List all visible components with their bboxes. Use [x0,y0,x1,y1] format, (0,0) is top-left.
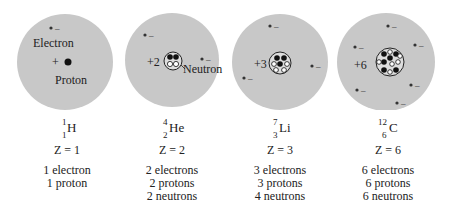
particle-counts: 6 electrons 6 protons 6 neutrons [333,164,443,203]
particle-counts: 2 electrons 2 protons 2 neutrons [117,164,227,203]
helium-caption: 4 2 He Z = 2 2 electrons 2 protons 2 neu… [117,118,227,203]
electron-dot [353,45,356,48]
neutron-count: 2 neutrons [117,190,227,203]
carbon-atom: – – – – – – +6 [337,13,435,110]
element-symbol: He [169,121,184,134]
hydrogen-atom: – Electron + Proton [17,14,113,110]
electron-sign: – [315,61,321,71]
element-symbol: Li [279,121,291,134]
proton-label: Proton [55,73,87,87]
z-value: Z = 1 [12,144,122,157]
atomic-number: 2 [163,131,168,140]
helium-atom: – – +2 Neutron [125,13,222,107]
particle-counts: 1 electron 1 proton [12,164,122,190]
electron-sign: – [54,23,60,33]
neutron-count: 6 neutrons [333,190,443,203]
electron-sign: – [360,85,366,95]
isotope-notation: 12 6 C [333,118,443,142]
mass-number: 1 [62,118,67,127]
element-symbol: H [67,121,76,134]
electron-dot [386,24,389,27]
nucleus [269,52,291,74]
electron-label: Electron [33,36,74,50]
electron-dot [268,24,271,27]
electron-sign: – [391,21,397,31]
electron-dot [395,101,398,104]
electron-dot [413,43,416,46]
nucleus-charge: +3 [254,57,267,71]
nucleus-charge: +2 [147,55,160,69]
z-value: Z = 3 [225,144,335,157]
mass-number: 12 [378,118,387,127]
isotope-notation: 7 3 Li [225,118,335,142]
z-value: Z = 2 [117,144,227,157]
carbon-caption: 12 6 C Z = 6 6 electrons 6 protons 6 neu… [333,118,443,203]
electron-dot [242,76,245,79]
neutron-count: 4 neutrons [225,190,335,203]
electron-sign: – [273,21,279,31]
electron-sign: – [358,42,364,52]
isotope-notation: 1 1 H [12,118,122,142]
hydrogen-caption: 1 1 H Z = 1 1 electron 1 proton [12,118,122,190]
neutron-label: Neutron [183,62,222,76]
proton-count: 1 proton [12,177,122,190]
electron-sign: – [414,80,420,90]
nucleus-charge: +6 [354,58,367,72]
z-value: Z = 6 [333,144,443,157]
electron-sign: – [400,98,406,108]
electron-dot [49,26,52,29]
electron-dot [409,83,412,86]
nucleus [376,48,404,76]
atomic-number: 6 [382,131,387,140]
electron-sign: – [247,73,253,83]
nucleus-charge: + [52,55,59,69]
atomic-number: 1 [62,131,67,140]
electron-dot [310,64,313,67]
lithium-caption: 7 3 Li Z = 3 3 electrons 3 protons 4 neu… [225,118,335,203]
atomic-number: 3 [273,131,278,140]
element-symbol: C [389,121,398,134]
mass-number: 7 [273,118,278,127]
atom-diagrams: – Electron + Proton – – +2 Neutron – – –… [0,0,452,110]
electron-sign: – [418,40,424,50]
electron-dot [355,88,358,91]
particle-counts: 3 electrons 3 protons 4 neutrons [225,164,335,203]
lithium-atom: – – – +3 [232,14,328,110]
isotope-notation: 4 2 He [117,118,227,142]
mass-number: 4 [163,118,168,127]
proton-dot [65,59,72,66]
electron-dot [143,33,146,36]
nucleus [164,52,182,70]
electron-sign: – [148,30,154,40]
electron-dot [200,57,203,60]
